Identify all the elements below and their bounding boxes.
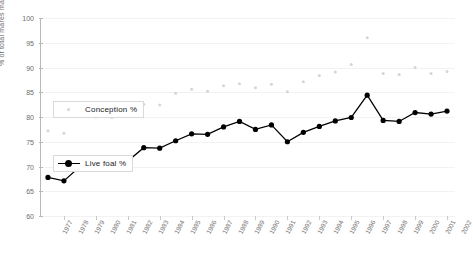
gridline xyxy=(40,216,455,217)
data-point xyxy=(397,119,402,124)
y-tick-mark xyxy=(39,216,43,217)
data-point xyxy=(317,124,322,129)
y-tick-label: 80 xyxy=(0,114,34,121)
y-tick-label: 90 xyxy=(0,64,34,71)
x-tick-label: 1986 xyxy=(204,219,217,235)
x-tick-mark xyxy=(319,216,320,220)
data-point xyxy=(206,90,209,93)
x-tick-mark xyxy=(255,216,256,220)
x-tick-mark xyxy=(383,216,384,220)
data-point xyxy=(428,111,433,116)
data-point xyxy=(62,132,65,135)
data-point xyxy=(45,175,50,180)
x-tick-label: 1989 xyxy=(252,219,265,235)
data-point xyxy=(254,86,257,89)
x-tick-label: 1988 xyxy=(236,219,249,235)
y-tick-label: 75 xyxy=(0,138,34,145)
data-point xyxy=(446,70,449,73)
data-point xyxy=(237,119,242,124)
legend-live-foal[interactable]: Live foal % xyxy=(53,155,133,172)
data-point xyxy=(221,124,226,129)
y-tick-label: 100 xyxy=(0,15,34,22)
x-tick-label: 1978 xyxy=(77,219,90,235)
x-tick-label: 1993 xyxy=(316,219,329,235)
data-point xyxy=(398,73,401,76)
y-axis-title: % of total mares mated xyxy=(0,0,5,66)
data-point xyxy=(253,127,258,132)
x-tick-label: 2001 xyxy=(444,219,457,235)
legend-conception-label: Conception % xyxy=(85,105,137,114)
data-point xyxy=(302,80,305,83)
data-point xyxy=(333,118,338,123)
x-tick-label: 1991 xyxy=(284,219,297,235)
data-point xyxy=(430,72,433,75)
x-tick-label: 1995 xyxy=(348,219,361,235)
data-point xyxy=(350,63,353,66)
x-tick-label: 1985 xyxy=(188,219,201,235)
data-point xyxy=(381,118,386,123)
x-tick-label: 1977 xyxy=(61,219,74,235)
data-point xyxy=(285,139,290,144)
data-point xyxy=(141,145,146,150)
x-tick-mark xyxy=(64,216,65,220)
data-point xyxy=(366,36,369,39)
data-point xyxy=(365,93,370,98)
y-tick-label: 60 xyxy=(0,213,34,220)
conception-marker-icon xyxy=(58,105,80,114)
x-tick-mark xyxy=(128,216,129,220)
x-tick-mark xyxy=(192,216,193,220)
x-tick-mark xyxy=(415,216,416,220)
y-tick-label: 85 xyxy=(0,89,34,96)
x-tick-label: 1979 xyxy=(93,219,106,235)
data-point xyxy=(349,115,354,120)
x-tick-label: 1982 xyxy=(140,219,153,235)
x-tick-mark xyxy=(287,216,288,220)
data-point xyxy=(286,90,289,93)
data-point xyxy=(270,83,273,86)
data-point xyxy=(222,84,225,87)
x-tick-label: 1997 xyxy=(380,219,393,235)
x-tick-label: 1998 xyxy=(396,219,409,235)
x-tick-mark xyxy=(96,216,97,220)
data-point xyxy=(269,122,274,127)
data-point xyxy=(414,66,417,69)
data-point xyxy=(205,132,210,137)
x-tick-label: 2000 xyxy=(428,219,441,235)
x-tick-label: 2002 xyxy=(460,219,473,235)
x-tick-label: 1990 xyxy=(268,219,281,235)
series-conception xyxy=(46,36,448,135)
data-point xyxy=(189,131,194,136)
x-tick-label: 1996 xyxy=(364,219,377,235)
data-point xyxy=(158,104,161,107)
x-tick-label: 1984 xyxy=(172,219,185,235)
x-tick-mark xyxy=(447,216,448,220)
data-point xyxy=(190,88,193,91)
legend-conception[interactable]: Conception % xyxy=(53,101,144,118)
data-point xyxy=(61,178,66,183)
live-foal-marker-icon xyxy=(58,159,80,168)
data-point xyxy=(46,129,49,132)
legend-live-foal-label: Live foal % xyxy=(85,159,126,168)
x-tick-label: 1981 xyxy=(124,219,137,235)
data-point xyxy=(157,146,162,151)
data-point xyxy=(382,72,385,75)
data-point xyxy=(238,82,241,85)
data-point xyxy=(174,92,177,95)
x-tick-mark xyxy=(224,216,225,220)
data-point xyxy=(173,138,178,143)
data-point xyxy=(318,74,321,77)
x-tick-label: 1987 xyxy=(220,219,233,235)
y-tick-label: 95 xyxy=(0,39,34,46)
x-tick-mark xyxy=(351,216,352,220)
y-tick-label: 70 xyxy=(0,163,34,170)
data-point xyxy=(301,130,306,135)
data-point xyxy=(444,108,449,113)
x-tick-label: 1980 xyxy=(109,219,122,235)
x-tick-label: 1999 xyxy=(412,219,425,235)
y-tick-label: 65 xyxy=(0,188,34,195)
data-point xyxy=(413,110,418,115)
x-tick-label: 1983 xyxy=(156,219,169,235)
x-tick-mark xyxy=(160,216,161,220)
data-point xyxy=(334,70,337,73)
